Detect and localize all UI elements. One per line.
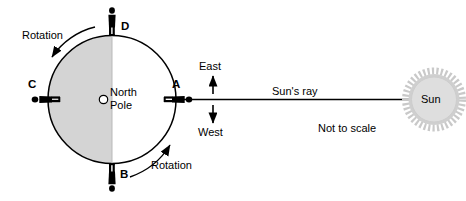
observer-figure-b	[108, 163, 115, 192]
diagram-canvas: D B A C North Pole Rotation Rotation Eas…	[0, 0, 466, 201]
position-label-c: C	[28, 78, 36, 91]
position-label-a: A	[172, 78, 180, 91]
not-to-scale-label: Not to scale	[318, 122, 376, 134]
sun-label: Sun	[421, 93, 441, 105]
rotation-label-top-left: Rotation	[22, 29, 63, 41]
rotation-label-bottom-right: Rotation	[151, 159, 192, 171]
position-label-b: B	[120, 168, 128, 181]
suns-ray-label: Sun's ray	[272, 85, 318, 97]
diagram-svg	[0, 0, 466, 201]
north-pole-marker	[99, 95, 107, 103]
position-label-d: D	[121, 20, 129, 33]
north-pole-label-line2: Pole	[110, 99, 132, 111]
observer-figure-d	[108, 7, 115, 36]
east-label: East	[199, 60, 221, 72]
north-pole-label-line1: North	[110, 86, 137, 98]
west-label: West	[198, 126, 223, 138]
